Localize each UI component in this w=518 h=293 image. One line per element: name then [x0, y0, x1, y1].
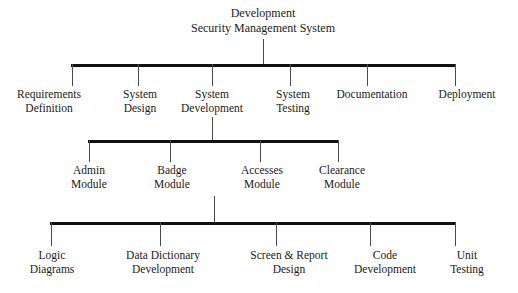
- node-clearance-module-line2: Module: [319, 178, 365, 192]
- node-unit-testing-line1: Unit: [450, 249, 484, 263]
- node-logic-diagrams-line1: Logic: [30, 249, 75, 263]
- sibling-bar-level3: [88, 140, 339, 143]
- node-accesses-module: Accesses Module: [241, 164, 283, 191]
- connector-level3-admin-module: [89, 140, 90, 162]
- node-requirements-definition: Requirements Definition: [17, 88, 81, 115]
- node-system-design-line2: Design: [123, 102, 157, 116]
- node-system-development-line2: Development: [181, 102, 243, 116]
- node-root-line1: Development: [191, 6, 335, 21]
- connector-system-development-to-level3: [212, 117, 213, 142]
- node-documentation: Documentation: [337, 88, 408, 102]
- node-clearance-module: Clearance Module: [319, 164, 365, 191]
- node-unit-testing-line2: Testing: [450, 263, 484, 277]
- connector-level4-screen-report-design: [276, 222, 277, 246]
- connector-level3-to-level4: [214, 196, 215, 224]
- node-documentation-line1: Documentation: [337, 88, 408, 102]
- connector-level2-system-testing: [290, 64, 291, 86]
- node-admin-module: Admin Module: [71, 164, 107, 191]
- node-system-development-line1: System: [181, 88, 243, 102]
- node-requirements-definition-line1: Requirements: [17, 88, 81, 102]
- connector-level3-accesses-module: [260, 140, 261, 162]
- node-system-testing-line1: System: [276, 88, 310, 102]
- node-clearance-module-line1: Clearance: [319, 164, 365, 178]
- connector-level4-logic-diagrams: [51, 222, 52, 246]
- node-system-testing-line2: Testing: [276, 102, 310, 116]
- node-deployment: Deployment: [439, 88, 496, 102]
- connector-level2-documentation: [367, 64, 368, 86]
- node-data-dictionary-development-line1: Data Dictionary: [126, 249, 200, 263]
- connector-level4-data-dictionary-development: [160, 222, 161, 246]
- node-unit-testing: Unit Testing: [450, 249, 484, 276]
- node-logic-diagrams: Logic Diagrams: [30, 249, 75, 276]
- node-code-development-line1: Code: [354, 249, 416, 263]
- connector-level2-deployment: [455, 64, 456, 86]
- node-data-dictionary-development: Data Dictionary Development: [126, 249, 200, 276]
- connector-level4-code-development: [370, 222, 371, 246]
- node-deployment-line1: Deployment: [439, 88, 496, 102]
- node-requirements-definition-line2: Definition: [17, 102, 81, 116]
- node-data-dictionary-development-line2: Development: [126, 263, 200, 277]
- connector-level2-system-development: [212, 64, 213, 86]
- node-system-development: System Development: [181, 88, 243, 115]
- connector-level2-requirements-definition: [72, 64, 73, 86]
- node-accesses-module-line1: Accesses: [241, 164, 283, 178]
- node-system-design: System Design: [123, 88, 157, 115]
- node-logic-diagrams-line2: Diagrams: [30, 263, 75, 277]
- connector-level2-system-design: [138, 64, 139, 86]
- node-badge-module: Badge Module: [154, 164, 190, 191]
- node-root-line2: Security Management System: [191, 21, 335, 36]
- node-code-development-line2: Development: [354, 263, 416, 277]
- node-admin-module-line1: Admin: [71, 164, 107, 178]
- node-screen-report-design-line1: Screen & Report: [250, 249, 327, 263]
- node-accesses-module-line2: Module: [241, 178, 283, 192]
- node-system-testing: System Testing: [276, 88, 310, 115]
- node-code-development: Code Development: [354, 249, 416, 276]
- node-root: Development Security Management System: [191, 6, 335, 36]
- connector-level4-unit-testing: [455, 222, 456, 246]
- node-admin-module-line2: Module: [71, 178, 107, 192]
- node-screen-report-design: Screen & Report Design: [250, 249, 327, 276]
- org-chart-diagram: Development Security Management System R…: [0, 0, 518, 293]
- node-badge-module-line1: Badge: [154, 164, 190, 178]
- sibling-bar-level4: [50, 222, 456, 225]
- connector-root-to-level2: [263, 39, 264, 66]
- connector-level3-clearance-module: [338, 140, 339, 162]
- sibling-bar-level2: [71, 64, 456, 67]
- node-screen-report-design-line2: Design: [250, 263, 327, 277]
- connector-level3-badge-module: [170, 140, 171, 162]
- node-badge-module-line2: Module: [154, 178, 190, 192]
- node-system-design-line1: System: [123, 88, 157, 102]
